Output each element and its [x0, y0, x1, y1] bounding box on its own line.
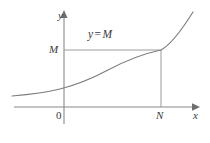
figure-container: y x M N 0 y=M [0, 0, 210, 143]
equation-label-y-equals-m: y=M [88, 29, 112, 41]
x-axis-tick-label-n: N [156, 110, 163, 121]
exponential-curve-diagram [0, 0, 210, 143]
origin-label: 0 [56, 110, 62, 121]
x-axis-group [14, 103, 200, 110]
x-axis-label: x [193, 110, 198, 121]
equation-rhs: M [103, 28, 113, 40]
equation-equals-sign: = [93, 28, 103, 40]
y-axis-label: y [58, 10, 63, 21]
exponential-curve [12, 12, 193, 96]
y-axis-tick-label-m: M [49, 44, 58, 55]
